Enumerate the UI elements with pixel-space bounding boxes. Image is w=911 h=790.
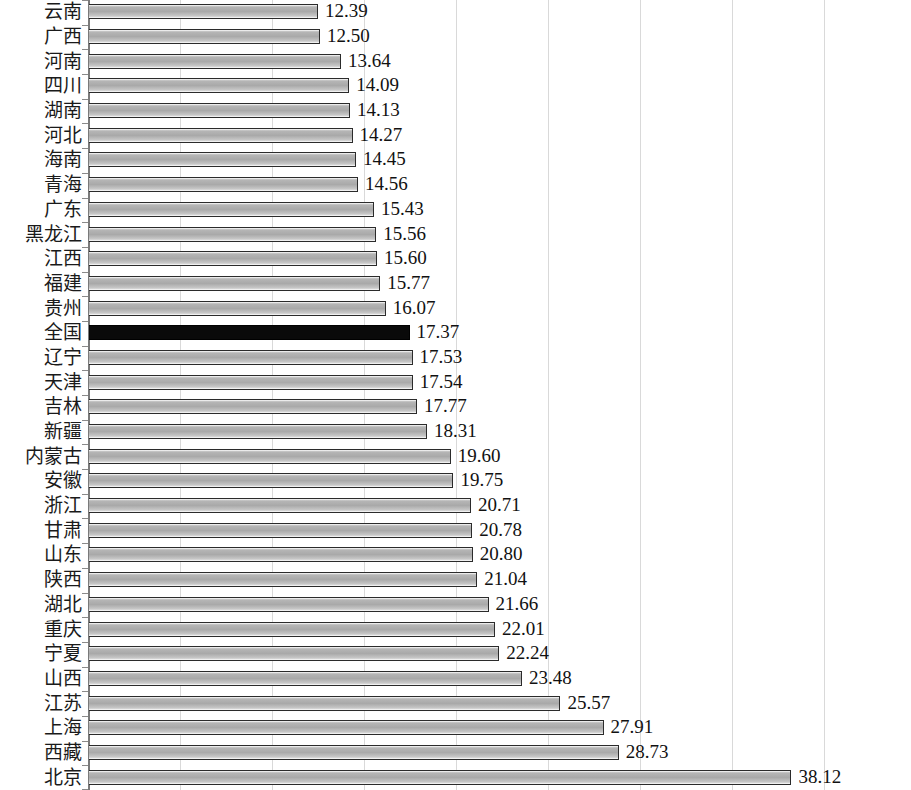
axis-tick: [82, 0, 88, 1]
category-label: 广东: [0, 200, 82, 219]
category-label: 全国: [0, 323, 82, 342]
axis-tick: [82, 321, 88, 322]
axis-tick: [82, 370, 88, 371]
bar: [89, 276, 380, 291]
bar: [89, 572, 477, 587]
axis-tick: [82, 518, 88, 519]
category-label: 河南: [0, 52, 82, 71]
bar: [89, 646, 499, 661]
value-label: 25.57: [567, 693, 610, 712]
category-label: 黑龙江: [0, 225, 82, 244]
bar: [89, 128, 353, 143]
horizontal-bar-chart: 云南12.39广西12.50河南13.64四川14.09湖南14.13河北14.…: [0, 0, 911, 790]
category-label: 西藏: [0, 743, 82, 762]
value-label: 19.60: [458, 446, 501, 465]
bar: [89, 152, 356, 167]
bar: [89, 770, 791, 785]
value-label: 20.71: [478, 495, 521, 514]
category-label: 四川: [0, 76, 82, 95]
gridline: [640, 0, 641, 790]
bar: [89, 671, 522, 686]
bar: [89, 54, 341, 69]
axis-tick: [82, 420, 88, 421]
axis-tick: [82, 346, 88, 347]
bar: [89, 4, 318, 19]
axis-tick: [82, 49, 88, 50]
gridline: [732, 0, 733, 790]
axis-tick: [82, 247, 88, 248]
value-label: 15.56: [383, 224, 426, 243]
category-label: 北京: [0, 768, 82, 787]
axis-tick: [82, 617, 88, 618]
axis-tick: [82, 296, 88, 297]
bar: [89, 399, 417, 414]
bar: [89, 622, 495, 637]
category-label: 甘肃: [0, 521, 82, 540]
axis-tick: [82, 716, 88, 717]
category-label: 江苏: [0, 694, 82, 713]
category-label: 云南: [0, 2, 82, 21]
category-label: 贵州: [0, 299, 82, 318]
value-label: 22.24: [506, 643, 549, 662]
axis-tick: [82, 543, 88, 544]
value-label: 17.53: [420, 347, 463, 366]
value-label: 14.45: [363, 149, 406, 168]
value-label: 17.37: [417, 322, 460, 341]
value-label: 15.43: [381, 199, 424, 218]
axis-tick: [82, 469, 88, 470]
bar: [89, 449, 451, 464]
bar: [89, 350, 413, 365]
axis-tick: [82, 123, 88, 124]
category-label: 海南: [0, 150, 82, 169]
axis-tick: [82, 99, 88, 100]
value-label: 20.78: [479, 520, 522, 539]
bar: [89, 227, 376, 242]
bar: [89, 424, 427, 439]
axis-tick: [82, 173, 88, 174]
axis-tick: [82, 568, 88, 569]
axis-tick: [82, 741, 88, 742]
axis-tick: [82, 25, 88, 26]
value-label: 12.39: [325, 1, 368, 20]
category-label: 湖北: [0, 595, 82, 614]
value-label: 16.07: [393, 298, 436, 317]
category-label: 上海: [0, 718, 82, 737]
axis-tick: [82, 395, 88, 396]
axis-tick: [82, 272, 88, 273]
bar: [89, 597, 489, 612]
bar: [89, 523, 472, 538]
value-label: 17.77: [424, 396, 467, 415]
value-label: 14.56: [365, 174, 408, 193]
value-label: 20.80: [480, 544, 523, 563]
category-label: 山东: [0, 545, 82, 564]
bar: [89, 720, 604, 735]
value-label: 22.01: [502, 619, 545, 638]
axis-tick: [82, 222, 88, 223]
value-label: 15.60: [384, 248, 427, 267]
value-label: 13.64: [348, 51, 391, 70]
axis-tick: [82, 642, 88, 643]
axis-tick: [82, 765, 88, 766]
axis-tick: [82, 148, 88, 149]
bar: [89, 547, 473, 562]
category-label: 吉林: [0, 397, 82, 416]
bar: [89, 375, 413, 390]
value-label: 14.27: [360, 125, 403, 144]
value-label: 27.91: [611, 717, 654, 736]
category-label: 陕西: [0, 570, 82, 589]
value-label: 17.54: [420, 372, 463, 391]
bar: [89, 202, 374, 217]
value-label: 15.77: [387, 273, 430, 292]
value-label: 19.75: [460, 470, 503, 489]
category-label: 福建: [0, 274, 82, 293]
category-label: 内蒙古: [0, 447, 82, 466]
bar: [89, 301, 386, 316]
value-label: 38.12: [798, 767, 841, 786]
bar: [89, 78, 349, 93]
axis-tick: [82, 74, 88, 75]
axis-tick: [82, 667, 88, 668]
value-label: 14.13: [357, 100, 400, 119]
axis-tick: [82, 444, 88, 445]
bar: [89, 29, 320, 44]
value-label: 12.50: [327, 26, 370, 45]
